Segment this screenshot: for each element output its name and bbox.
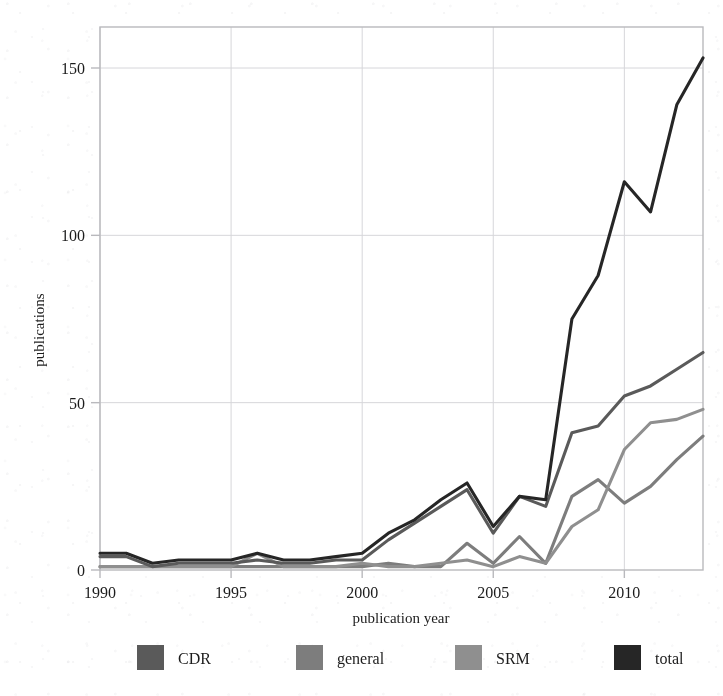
legend-label-srm: SRM: [496, 650, 530, 667]
chart-canvas: 050100150 19901995200020052010 publicati…: [0, 0, 723, 696]
x-axis: 19901995200020052010: [84, 570, 640, 601]
y-axis: 050100150: [61, 60, 100, 579]
x-tick-label: 2010: [608, 584, 640, 601]
y-axis-title: publications: [31, 293, 47, 366]
legend-swatch-total: [614, 645, 641, 670]
y-tick-label: 50: [69, 395, 85, 412]
y-tick-label: 150: [61, 60, 85, 77]
x-axis-title: publication year: [352, 610, 449, 626]
x-tick-label: 2005: [477, 584, 509, 601]
legend-swatch-general: [296, 645, 323, 670]
legend-label-general: general: [337, 650, 385, 668]
legend-swatch-srm: [455, 645, 482, 670]
x-tick-label: 2000: [346, 584, 378, 601]
legend-swatch-cdr: [137, 645, 164, 670]
legend-label-total: total: [655, 650, 684, 667]
x-tick-label: 1995: [215, 584, 247, 601]
y-tick-label: 100: [61, 227, 85, 244]
x-tick-label: 1990: [84, 584, 116, 601]
publications-line-chart-figure: 050100150 19901995200020052010 publicati…: [0, 0, 723, 696]
legend-label-cdr: CDR: [178, 650, 211, 667]
chart-legend: CDRgeneralSRMtotal: [137, 645, 684, 670]
plot-background: [100, 27, 703, 570]
y-tick-label: 0: [77, 562, 85, 579]
